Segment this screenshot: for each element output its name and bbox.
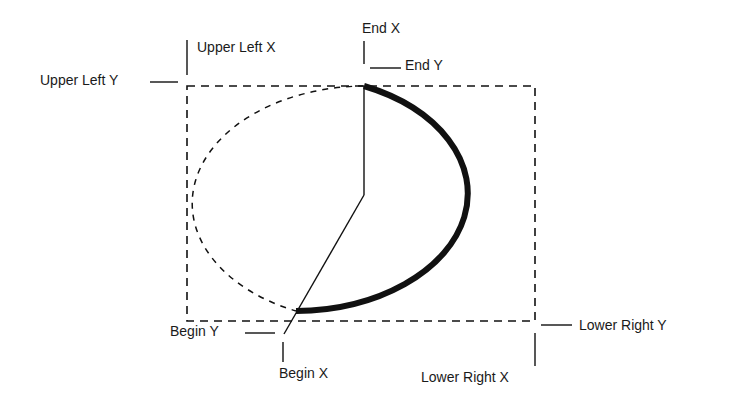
label-end-x: End X bbox=[362, 20, 400, 36]
label-lower-right-x: Lower Right X bbox=[421, 369, 509, 385]
label-begin-x: Begin X bbox=[279, 365, 328, 381]
label-upper-left-y: Upper Left Y bbox=[40, 72, 118, 88]
ellipse-dashed-portion bbox=[192, 86, 364, 311]
arc-solid bbox=[296, 86, 468, 311]
arc-diagram bbox=[0, 0, 743, 407]
bounding-box bbox=[187, 86, 535, 321]
label-lower-right-y: Lower Right Y bbox=[579, 317, 667, 333]
label-end-y: End Y bbox=[405, 57, 443, 73]
begin-radial-line bbox=[284, 195, 364, 334]
label-upper-left-x: Upper Left X bbox=[197, 39, 276, 55]
label-begin-y: Begin Y bbox=[170, 323, 219, 339]
